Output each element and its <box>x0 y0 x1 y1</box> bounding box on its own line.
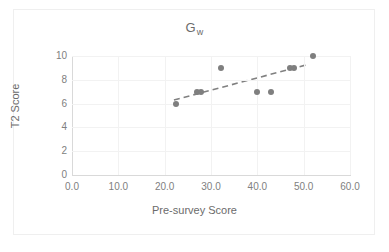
y-tick-label: 8 <box>41 75 67 85</box>
data-point <box>173 101 179 107</box>
y-tick-label: 4 <box>41 122 67 132</box>
x-axis-line <box>72 175 351 176</box>
chart-title-subscript: w <box>197 27 204 37</box>
scatter-chart: Gw T2 Score 0246810 0.010.020.030.040.05… <box>0 0 389 252</box>
x-tick-label: 50.0 <box>284 181 324 193</box>
x-tick-label: 60.0 <box>330 181 370 193</box>
chart-title-base: G <box>185 20 195 35</box>
x-tick-label: 20.0 <box>145 181 185 193</box>
gridline-vertical <box>118 56 119 175</box>
gridline-vertical <box>165 56 166 175</box>
data-point <box>310 53 316 59</box>
x-tick-label: 40.0 <box>237 181 277 193</box>
x-tick-label: 10.0 <box>98 181 138 193</box>
y-tick-label: 0 <box>41 170 67 180</box>
x-axis-label: Pre-survey Score <box>0 204 389 216</box>
x-tick-label: 0.0 <box>52 181 92 193</box>
gridline-vertical <box>350 56 351 175</box>
gridline-vertical <box>304 56 305 175</box>
data-point <box>198 89 204 95</box>
gridline-vertical <box>211 56 212 175</box>
y-tick-label: 2 <box>41 146 67 156</box>
plot-area <box>72 56 350 175</box>
gridline-vertical <box>257 56 258 175</box>
x-tick-label: 30.0 <box>191 181 231 193</box>
data-point <box>268 89 274 95</box>
y-tick-label: 10 <box>41 51 67 61</box>
y-axis-label: T2 Score <box>9 61 21 151</box>
x-axis-tick-labels: 0.010.020.030.040.050.060.0 <box>0 181 389 195</box>
y-tick-label: 6 <box>41 99 67 109</box>
